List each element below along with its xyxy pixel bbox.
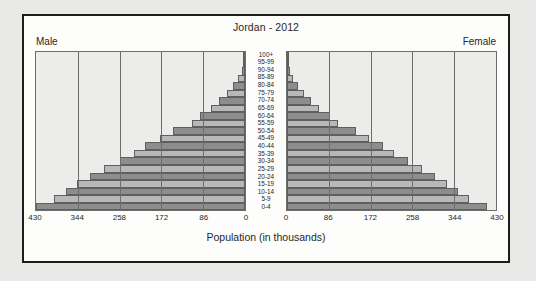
bar-row — [287, 127, 496, 135]
bar-male-70-74 — [219, 97, 245, 105]
bar-row — [287, 75, 496, 83]
bar-female-65-69 — [287, 105, 319, 113]
bar-female-60-64 — [287, 112, 330, 120]
gridline — [412, 52, 413, 210]
bar-male-10-14 — [66, 188, 245, 196]
bar-female-0-4 — [287, 203, 487, 211]
gridline — [329, 52, 330, 210]
x-axis-tick-row: 430344258172860 086172258344430 — [35, 213, 497, 225]
bar-male-60-64 — [200, 112, 245, 120]
bar-row — [36, 135, 245, 143]
female-bars — [287, 52, 496, 210]
bar-male-5-9 — [54, 195, 245, 203]
bar-row — [287, 203, 496, 211]
age-group-label: 65-69 — [246, 104, 286, 112]
bar-male-95-99 — [243, 60, 245, 68]
bar-row — [287, 180, 496, 188]
bar-male-25-29 — [104, 165, 245, 173]
bar-row — [287, 135, 496, 143]
bar-row — [36, 60, 245, 68]
bar-row — [36, 75, 245, 83]
bar-row — [36, 82, 245, 90]
gridline — [120, 52, 121, 210]
bar-row — [36, 127, 245, 135]
bar-male-20-24 — [90, 173, 245, 181]
bar-male-100+ — [243, 52, 245, 60]
bar-row — [36, 105, 245, 113]
female-plot-area — [286, 51, 497, 211]
bar-row — [287, 173, 496, 181]
bar-row — [287, 52, 496, 60]
x-tick-label: 430 — [28, 213, 41, 222]
bar-row — [287, 90, 496, 98]
x-tick-label: 0 — [284, 213, 288, 222]
axis-tick-spacer — [246, 213, 286, 225]
bar-female-55-59 — [287, 120, 338, 128]
population-pyramid: 100+95-9990-9485-8980-8475-7970-7465-696… — [35, 51, 497, 211]
bar-row — [287, 188, 496, 196]
age-group-label: 0-4 — [246, 204, 286, 212]
chart-title: Jordan - 2012 — [24, 21, 508, 33]
bar-female-75-79 — [287, 90, 304, 98]
male-plot-area — [35, 51, 246, 211]
male-bars — [36, 52, 245, 210]
gridline — [203, 52, 204, 210]
bar-male-90-94 — [242, 67, 245, 75]
bar-female-50-54 — [287, 127, 356, 135]
bar-row — [36, 52, 245, 60]
bar-male-35-39 — [134, 150, 245, 158]
bar-row — [36, 203, 245, 211]
bar-male-75-79 — [227, 90, 245, 98]
bar-female-85-89 — [287, 75, 293, 83]
bar-male-85-89 — [238, 75, 245, 83]
bar-row — [287, 142, 496, 150]
bar-row — [287, 112, 496, 120]
bar-male-80-84 — [233, 82, 245, 90]
bar-female-10-14 — [287, 188, 458, 196]
age-group-label: 80-84 — [246, 82, 286, 90]
female-side-label: Female — [463, 36, 496, 47]
female-axis-ticks: 086172258344430 — [286, 213, 497, 225]
chart-card: Jordan - 2012 Male Female 100+95-9990-94… — [22, 14, 510, 263]
gridline — [371, 52, 372, 210]
age-group-axis: 100+95-9990-9485-8980-8475-7970-7465-696… — [246, 51, 286, 211]
page-background: Jordan - 2012 Male Female 100+95-9990-94… — [0, 0, 536, 281]
x-tick-label: 258 — [113, 213, 126, 222]
bar-row — [36, 112, 245, 120]
bar-female-70-74 — [287, 97, 311, 105]
bar-row — [287, 67, 496, 75]
x-tick-label: 344 — [71, 213, 84, 222]
x-tick-label: 86 — [324, 213, 333, 222]
male-side-label: Male — [36, 36, 58, 47]
x-tick-label: 0 — [244, 213, 248, 222]
bar-female-90-94 — [287, 67, 290, 75]
x-tick-label: 344 — [448, 213, 461, 222]
bar-male-40-44 — [145, 142, 245, 150]
bar-row — [287, 195, 496, 203]
age-group-label: 40-44 — [246, 143, 286, 151]
bar-row — [36, 157, 245, 165]
bar-female-35-39 — [287, 150, 394, 158]
bar-male-55-59 — [192, 120, 245, 128]
x-tick-label: 172 — [364, 213, 377, 222]
gridline — [161, 52, 162, 210]
bar-row — [287, 82, 496, 90]
bar-row — [36, 150, 245, 158]
bar-row — [36, 97, 245, 105]
bar-row — [287, 150, 496, 158]
bar-female-80-84 — [287, 82, 298, 90]
x-tick-label: 258 — [406, 213, 419, 222]
bar-male-50-54 — [173, 127, 245, 135]
bar-row — [36, 165, 245, 173]
gridline — [78, 52, 79, 210]
bar-row — [287, 60, 496, 68]
bar-female-15-19 — [287, 180, 447, 188]
bar-row — [36, 142, 245, 150]
bar-female-5-9 — [287, 195, 469, 203]
bar-row — [287, 120, 496, 128]
bar-row — [287, 105, 496, 113]
bar-row — [36, 120, 245, 128]
bar-female-30-34 — [287, 157, 408, 165]
x-tick-label: 430 — [490, 213, 503, 222]
bar-female-95-99 — [287, 60, 289, 68]
